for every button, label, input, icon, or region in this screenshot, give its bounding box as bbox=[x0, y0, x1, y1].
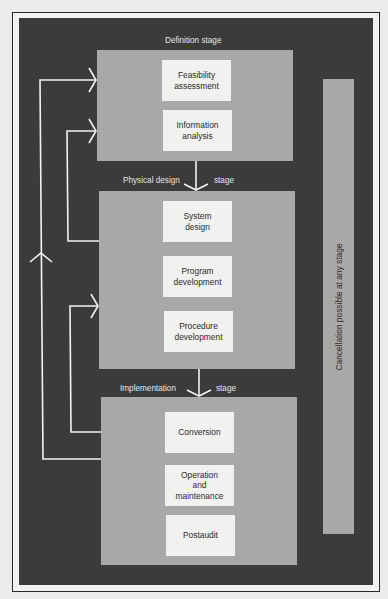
procedure-development-box: Procedure development bbox=[164, 311, 233, 352]
postaudit-box: Postaudit bbox=[166, 515, 235, 556]
cancellation-bar: Cancellation possible at any stage bbox=[323, 79, 354, 534]
physical-design-stage-label: Physical design bbox=[123, 176, 180, 185]
implementation-stage-label: Implementation bbox=[120, 384, 176, 393]
physical-design-stage-suffix: stage bbox=[214, 176, 234, 185]
feasibility-assessment-box: Feasibility assessment bbox=[162, 60, 231, 101]
system-design-box: System design bbox=[163, 201, 232, 242]
implementation-stage-suffix: stage bbox=[216, 384, 236, 393]
conversion-box: Conversion bbox=[165, 412, 234, 453]
cancellation-note: Cancellation possible at any stage bbox=[334, 243, 344, 370]
program-development-box: Program development bbox=[163, 256, 232, 297]
operation-maintenance-box: Operation and maintenance bbox=[165, 465, 234, 506]
information-analysis-box: Information analysis bbox=[163, 110, 232, 151]
definition-stage-label: Definition stage bbox=[165, 36, 221, 45]
